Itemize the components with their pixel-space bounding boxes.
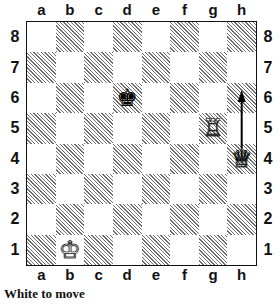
- file-label: c: [84, 1, 113, 18]
- rank-label: 5: [258, 113, 278, 143]
- square-c2: [84, 204, 113, 234]
- rank-label: 2: [258, 204, 278, 234]
- square-b2: [56, 204, 85, 234]
- file-label: h: [227, 266, 256, 283]
- square-a5: [27, 113, 56, 143]
- file-label: d: [113, 266, 142, 283]
- square-f4: [170, 144, 199, 174]
- square-g5: ♖: [199, 113, 228, 143]
- square-f3: [170, 174, 199, 204]
- square-g6: [199, 83, 228, 113]
- square-a1: [27, 235, 56, 265]
- file-label: b: [56, 1, 85, 18]
- square-h1: [227, 235, 256, 265]
- square-g8: [199, 22, 228, 52]
- rank-label: 4: [5, 144, 25, 174]
- file-label: c: [84, 266, 113, 283]
- rank-label: 8: [5, 22, 25, 52]
- square-f5: [170, 113, 199, 143]
- square-a6: [27, 83, 56, 113]
- square-e8: [142, 22, 171, 52]
- square-f2: [170, 204, 199, 234]
- file-label: b: [56, 266, 85, 283]
- square-c3: [84, 174, 113, 204]
- file-label: e: [142, 1, 171, 18]
- file-label: g: [199, 266, 228, 283]
- square-b8: [56, 22, 85, 52]
- rank-label: 6: [5, 83, 25, 113]
- rank-label: 8: [258, 22, 278, 52]
- square-h4: ♕: [227, 144, 256, 174]
- square-d7: [113, 52, 142, 82]
- square-g1: [199, 235, 228, 265]
- square-c1: [84, 235, 113, 265]
- square-g3: [199, 174, 228, 204]
- square-b1: ♔: [56, 235, 85, 265]
- square-a7: [27, 52, 56, 82]
- square-c7: [84, 52, 113, 82]
- square-c8: [84, 22, 113, 52]
- file-label: d: [113, 1, 142, 18]
- square-h6: [227, 83, 256, 113]
- rank-label: 7: [258, 52, 278, 82]
- square-d3: [113, 174, 142, 204]
- square-c6: [84, 83, 113, 113]
- chess-board: ♚♖♕♔: [26, 21, 257, 266]
- square-e7: [142, 52, 171, 82]
- rank-label: 1: [5, 235, 25, 265]
- square-e3: [142, 174, 171, 204]
- rank-labels-left: 8 7 6 5 4 3 2 1: [5, 22, 25, 265]
- square-e6: [142, 83, 171, 113]
- square-h5: [227, 113, 256, 143]
- square-e5: [142, 113, 171, 143]
- square-c4: [84, 144, 113, 174]
- white-king-icon: ♔: [59, 238, 81, 262]
- square-d5: [113, 113, 142, 143]
- rank-label: 6: [258, 83, 278, 113]
- square-f8: [170, 22, 199, 52]
- square-h2: [227, 204, 256, 234]
- rank-labels-right: 8 7 6 5 4 3 2 1: [258, 22, 278, 265]
- square-b4: [56, 144, 85, 174]
- file-labels-bottom: a b c d e f g h: [27, 266, 256, 283]
- rank-label: 4: [258, 144, 278, 174]
- square-d1: [113, 235, 142, 265]
- file-label: e: [142, 266, 171, 283]
- square-a2: [27, 204, 56, 234]
- caption: White to move: [4, 286, 85, 302]
- square-h8: [227, 22, 256, 52]
- file-label: g: [199, 1, 228, 18]
- square-a4: [27, 144, 56, 174]
- square-d8: [113, 22, 142, 52]
- file-label: a: [27, 266, 56, 283]
- square-e1: [142, 235, 171, 265]
- rank-label: 3: [258, 174, 278, 204]
- square-f6: [170, 83, 199, 113]
- square-f7: [170, 52, 199, 82]
- rank-label: 5: [5, 113, 25, 143]
- square-b7: [56, 52, 85, 82]
- square-a8: [27, 22, 56, 52]
- file-label: f: [170, 1, 199, 18]
- square-d2: [113, 204, 142, 234]
- square-b6: [56, 83, 85, 113]
- square-b5: [56, 113, 85, 143]
- square-h7: [227, 52, 256, 82]
- square-b3: [56, 174, 85, 204]
- black-king-icon: ♚: [116, 86, 138, 110]
- square-g7: [199, 52, 228, 82]
- square-d6: ♚: [113, 83, 142, 113]
- file-label: f: [170, 266, 199, 283]
- square-e4: [142, 144, 171, 174]
- rank-label: 2: [5, 204, 25, 234]
- rank-label: 3: [5, 174, 25, 204]
- file-label: a: [27, 1, 56, 18]
- square-a3: [27, 174, 56, 204]
- square-h3: [227, 174, 256, 204]
- file-labels-top: a b c d e f g h: [27, 1, 256, 18]
- square-d4: [113, 144, 142, 174]
- white-rook-icon: ♖: [202, 116, 224, 140]
- rank-label: 7: [5, 52, 25, 82]
- rank-label: 1: [258, 235, 278, 265]
- square-c5: [84, 113, 113, 143]
